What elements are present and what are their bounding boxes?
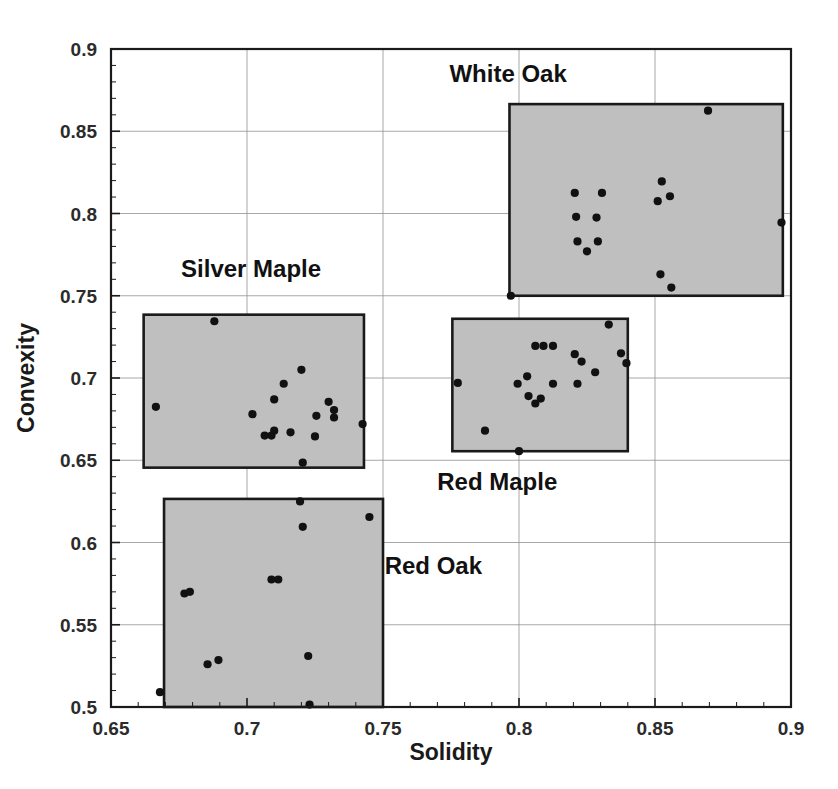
cluster-label-white-oak: White Oak — [449, 60, 567, 87]
data-point — [571, 189, 579, 197]
data-point — [658, 177, 666, 185]
x-tick-label: 0.7 — [234, 718, 260, 739]
x-tick-label: 0.85 — [637, 718, 674, 739]
data-point — [330, 406, 338, 414]
data-point — [571, 350, 579, 358]
cluster-label-silver-maple: Silver Maple — [181, 255, 321, 282]
data-point — [654, 197, 662, 205]
data-point — [286, 428, 294, 436]
cluster-box-silver-maple — [144, 315, 364, 468]
data-point — [666, 192, 674, 200]
data-point — [573, 237, 581, 245]
y-tick-label: 0.6 — [71, 533, 97, 554]
data-point — [152, 403, 160, 411]
data-point — [311, 432, 319, 440]
data-point — [524, 392, 532, 400]
data-point — [507, 292, 515, 300]
y-tick-label: 0.55 — [60, 615, 97, 636]
data-point — [304, 652, 312, 660]
cluster-label-red-oak: Red Oak — [385, 552, 483, 579]
data-point — [203, 660, 211, 668]
data-point — [539, 342, 547, 350]
data-point — [299, 459, 307, 467]
data-point — [591, 368, 599, 376]
data-point — [583, 247, 591, 255]
data-point — [248, 410, 256, 418]
data-point — [312, 412, 320, 420]
y-axis-title: Convexity — [13, 323, 39, 433]
x-axis-title: Solidity — [409, 739, 492, 765]
data-point — [777, 218, 785, 226]
data-point — [594, 237, 602, 245]
cluster-box-red-maple — [452, 319, 627, 451]
data-point — [592, 214, 600, 222]
data-point — [156, 688, 164, 696]
data-point — [577, 357, 585, 365]
data-point — [274, 575, 282, 583]
data-point — [549, 380, 557, 388]
data-point — [359, 420, 367, 428]
data-point — [270, 395, 278, 403]
y-tick-label: 0.8 — [71, 204, 97, 225]
data-point — [598, 189, 606, 197]
y-tick-label: 0.9 — [71, 39, 97, 60]
data-point — [454, 379, 462, 387]
data-point — [280, 380, 288, 388]
data-point — [186, 588, 194, 596]
data-point — [523, 372, 531, 380]
data-point — [572, 213, 580, 221]
cluster-box-layer — [144, 104, 783, 707]
x-tick-label: 0.8 — [506, 718, 532, 739]
data-point — [330, 413, 338, 421]
data-point — [210, 317, 218, 325]
data-point — [325, 398, 333, 406]
x-tick-label: 0.65 — [93, 718, 130, 739]
x-tick-label: 0.9 — [778, 718, 804, 739]
y-tick-label: 0.75 — [60, 286, 97, 307]
data-point — [605, 320, 613, 328]
y-tick-label: 0.85 — [60, 121, 97, 142]
y-tick-label: 0.5 — [71, 697, 98, 718]
data-point — [667, 283, 675, 291]
data-point — [481, 427, 489, 435]
plot-canvas: 0.650.70.750.80.850.90.50.550.60.650.70.… — [0, 0, 838, 789]
data-point — [617, 349, 625, 357]
data-point — [299, 523, 307, 531]
y-tick-label: 0.65 — [60, 450, 97, 471]
data-point — [365, 513, 373, 521]
data-point — [261, 431, 269, 439]
data-point — [531, 342, 539, 350]
data-point — [622, 359, 630, 367]
x-tick-label: 0.75 — [365, 718, 402, 739]
data-point — [531, 399, 539, 407]
data-point — [573, 380, 581, 388]
data-point — [297, 366, 305, 374]
data-point — [514, 380, 522, 388]
cluster-label-red-maple: Red Maple — [437, 468, 557, 495]
data-point — [515, 447, 523, 455]
cluster-box-red-oak — [164, 499, 383, 707]
data-point — [214, 656, 222, 664]
cluster-box-white-oak — [509, 104, 782, 296]
data-point — [296, 497, 304, 505]
data-point — [704, 107, 712, 115]
scatter-plot-figure: 0.650.70.750.80.850.90.50.550.60.650.70.… — [0, 0, 838, 789]
data-point — [549, 342, 557, 350]
data-point — [656, 270, 664, 278]
y-tick-label: 0.7 — [71, 368, 97, 389]
